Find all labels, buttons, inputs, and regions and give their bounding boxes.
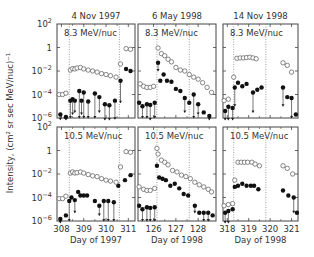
open-point (155, 146, 159, 150)
svg-text:10−4: 10−4 (32, 88, 52, 100)
open-point (232, 75, 236, 79)
open-point (169, 60, 173, 64)
open-point (104, 72, 108, 76)
filled-point (97, 204, 101, 208)
filled-point (103, 102, 107, 106)
open-point (64, 194, 68, 198)
filled-point (73, 198, 77, 202)
open-point (187, 72, 191, 76)
open-point (196, 77, 200, 81)
open-point (128, 150, 132, 154)
x-tick-label: 320 (262, 224, 278, 234)
open-point (290, 172, 294, 176)
x-tick-label: 127 (168, 224, 184, 234)
filled-point (102, 199, 106, 203)
open-point (174, 65, 178, 69)
filled-point (128, 69, 132, 73)
filled-point (230, 106, 234, 110)
svg-text:10−6: 10−6 (32, 214, 52, 226)
open-point (226, 202, 230, 206)
filled-point (148, 206, 152, 210)
open-point (99, 71, 103, 75)
filled-point (240, 84, 244, 88)
open-point (137, 185, 141, 189)
x-axis-label: Day of 1998 (234, 235, 286, 245)
energy-label: 10.5 MeV/nuc (145, 131, 204, 141)
filled-point (289, 96, 293, 100)
open-point (178, 68, 182, 72)
filled-point (193, 204, 197, 208)
open-point (209, 190, 213, 194)
x-axis-label: Day of 1997 (70, 235, 122, 245)
open-point (156, 46, 160, 50)
open-point (222, 98, 226, 102)
open-point (86, 172, 90, 176)
filled-point (223, 109, 227, 113)
y-tick-labels-row-0: 102110−210−410−6 (32, 17, 52, 123)
svg-text:10−2: 10−2 (32, 64, 52, 76)
filled-point (124, 67, 128, 71)
open-point (184, 174, 188, 178)
y-tick-labels-row-1: 102110−210−410−6 (32, 120, 52, 226)
filled-point (137, 204, 141, 208)
filled-point (86, 99, 90, 103)
filled-point (210, 213, 214, 217)
energy-label: 8.3 MeV/nuc (145, 28, 198, 38)
x-tick-label: 318 (219, 224, 235, 234)
open-point (95, 70, 99, 74)
y-axis-label: Intensity, (cm² sr sec MeV/nuc)⁻¹ (5, 53, 15, 193)
filled-point (85, 193, 89, 197)
figure: Intensity, (cm² sr sec MeV/nuc)⁻¹102110−… (0, 0, 314, 257)
filled-point (58, 217, 62, 221)
filled-point (82, 90, 86, 94)
energy-label: 8.3 MeV/nuc (64, 28, 117, 38)
energy-label: 10.5 MeV/nuc (64, 131, 123, 141)
filled-point (256, 187, 260, 191)
x-tick-label: 311 (120, 224, 136, 234)
x-tick-label: 310 (98, 224, 114, 234)
column-title: 4 Nov 1997 (71, 11, 120, 21)
filled-point (181, 192, 185, 196)
filled-point (73, 98, 77, 102)
filled-point (252, 184, 256, 188)
open-point (124, 149, 128, 153)
filled-point (197, 211, 201, 215)
open-point (285, 63, 289, 67)
filled-point (202, 110, 206, 114)
open-point (200, 81, 204, 85)
filled-point (137, 101, 141, 105)
filled-point (196, 102, 200, 106)
open-point (90, 174, 94, 178)
open-point (183, 69, 187, 73)
filled-point (169, 80, 173, 84)
filled-point (295, 211, 299, 215)
filled-point (178, 89, 182, 93)
open-point (281, 61, 285, 65)
open-point (124, 46, 128, 50)
open-point (226, 97, 230, 101)
filled-point (165, 78, 169, 82)
chart-canvas: Intensity, (cm² sr sec MeV/nuc)⁻¹102110−… (0, 0, 314, 257)
filled-point (168, 184, 172, 188)
x-tick-label: 128 (190, 224, 206, 234)
panel-r1-c2: 10.5 MeV/nuc (222, 127, 299, 224)
filled-point (173, 181, 177, 185)
open-point (104, 178, 108, 182)
x-tick-label: 321 (283, 224, 299, 234)
open-point (153, 186, 157, 190)
filled-point (107, 103, 111, 107)
svg-text:102: 102 (37, 17, 52, 29)
filled-point (183, 96, 187, 100)
x-tick-label: 319 (241, 224, 257, 234)
filled-point (58, 112, 62, 116)
open-point (222, 204, 226, 208)
svg-text:1: 1 (47, 43, 52, 53)
open-point (114, 75, 118, 79)
open-point (166, 163, 170, 167)
filled-point (174, 87, 178, 91)
filled-point (97, 95, 101, 99)
open-point (64, 91, 68, 95)
open-point (82, 171, 86, 175)
panel-r0-c2: 8.3 MeV/nuc (222, 24, 298, 121)
filled-point (106, 199, 110, 203)
